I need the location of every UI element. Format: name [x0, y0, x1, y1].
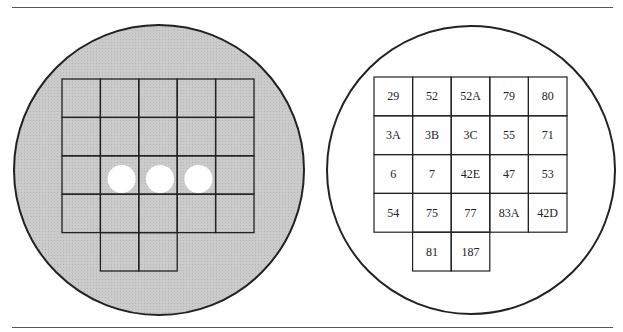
wells	[108, 165, 213, 193]
cell-label: 47	[503, 167, 515, 181]
cell-label: 81	[426, 245, 438, 259]
cell-label: 55	[503, 128, 515, 142]
cell-label: 42E	[461, 167, 480, 181]
cell-label: 6	[390, 167, 396, 181]
cell-label: 52	[426, 89, 438, 103]
cell-label: 83A	[499, 206, 520, 220]
cell-label: 3A	[386, 128, 401, 142]
cell-label: 77	[465, 206, 477, 220]
cell-label: 53	[542, 167, 554, 181]
cell-label: 3B	[425, 128, 439, 142]
well-hole	[108, 165, 136, 193]
well-hole	[146, 165, 174, 193]
cell-label: 75	[426, 206, 438, 220]
well-hole	[184, 165, 212, 193]
cell-label: 54	[387, 206, 399, 220]
cell-label: 29	[387, 89, 399, 103]
cell-label: 7	[429, 167, 435, 181]
right-dish: 295252A79803A3B3C55716742E475354757783A4…	[327, 26, 615, 314]
figure-canvas: 295252A79803A3B3C55716742E475354757783A4…	[0, 0, 623, 332]
cell-label: 79	[503, 89, 515, 103]
cell-label: 187	[462, 245, 480, 259]
cell-label: 71	[542, 128, 554, 142]
left-dish	[14, 25, 304, 315]
cell-label: 3C	[463, 128, 477, 142]
cell-label: 42D	[537, 206, 558, 220]
cell-label: 52A	[460, 89, 481, 103]
cell-label: 80	[542, 89, 554, 103]
